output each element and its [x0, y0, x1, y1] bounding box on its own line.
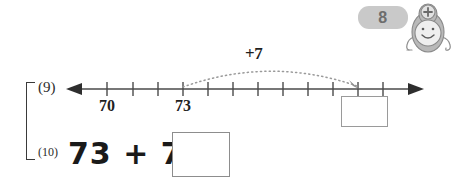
worksheet-page: 8 (9) [0, 0, 458, 187]
jump-arc-label: +7 [245, 44, 262, 64]
number-line-answer-box[interactable] [341, 96, 388, 127]
tick-label-73: 73 [163, 97, 203, 115]
exercise-number-10: (10) [38, 145, 58, 160]
tick-label-70: 70 [87, 97, 127, 115]
exercise-number-9: (9) [38, 79, 56, 96]
plus-mascot-icon [398, 0, 458, 60]
equation-answer-box[interactable] [172, 132, 230, 177]
